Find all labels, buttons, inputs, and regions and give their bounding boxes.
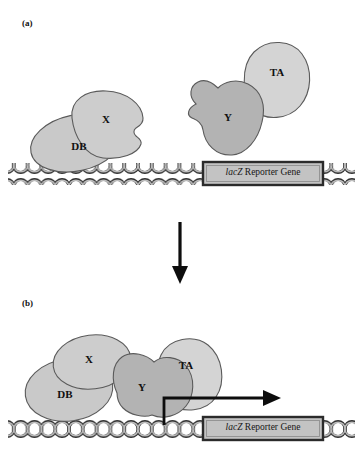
figure-container: (a) (b)	[0, 0, 363, 463]
gene-suffix-panel-a: Reporter Gene	[242, 167, 300, 177]
protein-label-db-panel-a: DB	[71, 140, 87, 152]
transition-arrow-head	[172, 266, 188, 284]
protein-label-y-panel-b: Y	[138, 381, 146, 393]
protein-label-ta-panel-b: TA	[179, 359, 194, 371]
diagram-svg: DB X Y TA	[0, 0, 363, 463]
gene-suffix-panel-b: Reporter Gene	[242, 422, 300, 432]
transition-arrow-group	[172, 222, 188, 284]
protein-label-x-panel-b: X	[85, 353, 93, 365]
gene-box-label-panel-b: lacZ Reporter Gene	[207, 422, 319, 432]
protein-label-y-panel-a: Y	[224, 111, 232, 123]
gene-name-italic-panel-a: lacZ	[226, 167, 243, 177]
protein-label-x-panel-a: X	[102, 113, 110, 125]
panel-a-group: DB X Y TA	[8, 42, 355, 185]
protein-label-db-panel-b: DB	[57, 388, 73, 400]
protein-label-ta-panel-a: TA	[270, 66, 285, 78]
transcription-arrow-head	[263, 390, 281, 406]
gene-box-label-panel-a: lacZ Reporter Gene	[207, 167, 319, 177]
gene-name-italic-panel-b: lacZ	[226, 422, 243, 432]
